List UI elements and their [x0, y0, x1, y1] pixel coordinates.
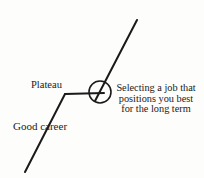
annotation-line-3: for the long term — [113, 104, 199, 115]
annotation-line-1: Selecting a job that — [113, 83, 199, 94]
career-diagram: Plateau Good career Selecting a job that… — [0, 0, 204, 178]
good-career-label: Good career — [13, 121, 67, 133]
good-career-rising-line — [25, 94, 65, 172]
annotation-text: Selecting a job that positions you best … — [113, 83, 199, 115]
plateau-label: Plateau — [31, 79, 62, 90]
